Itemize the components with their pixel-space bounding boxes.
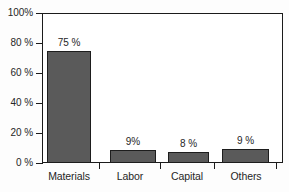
bar-others (222, 149, 269, 163)
y-axis-tick-label-100: 100% (8, 8, 42, 18)
x-axis-category-label-materials: Materials (33, 171, 105, 182)
bar-capital (168, 152, 209, 163)
bar-chart-figure: 100% 80 % 60 % 40 % 20 % 0 % 75 % 9% 8 %… (0, 0, 289, 192)
y-axis-tick-label-60: 60 % (11, 68, 42, 78)
x-axis-tick-mark-2 (160, 163, 161, 169)
x-axis-tick-mark-1 (99, 163, 100, 169)
x-axis-category-label-labor: Labor (100, 171, 160, 182)
x-axis-category-label-others: Others (215, 171, 277, 182)
x-axis-tick-mark-4 (276, 163, 277, 169)
y-axis-tick-label-20: 20 % (11, 128, 42, 138)
y-axis-tick-label-80: 80 % (11, 38, 42, 48)
bar-value-label-capital: 8 % (168, 139, 209, 149)
x-axis-category-label-capital: Capital (157, 171, 217, 182)
y-axis-tick-label-0: 0 % (16, 158, 42, 168)
bar-labor (110, 150, 156, 163)
x-axis-tick-mark-3 (214, 163, 215, 169)
y-axis-tick-label-40: 40 % (11, 98, 42, 108)
bar-value-label-labor: 9% (110, 137, 156, 147)
bar-value-label-materials: 75 % (47, 38, 91, 48)
bar-value-label-others: 9 % (222, 136, 269, 146)
bar-materials (47, 51, 91, 163)
